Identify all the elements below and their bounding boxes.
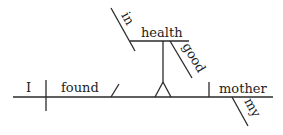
subject-word: I	[26, 80, 31, 95]
pedestal-left-leg	[155, 82, 163, 97]
object-word: mother	[219, 81, 267, 96]
phrase-object-word: health	[141, 25, 183, 40]
sentence-diagram: I found mother health in good my	[0, 0, 283, 135]
modifier-word-my: my	[241, 95, 264, 120]
modifier-word-good: good	[179, 40, 208, 75]
complement-slash	[111, 84, 119, 97]
verb-word: found	[61, 80, 99, 95]
pedestal-right-leg	[163, 82, 171, 97]
